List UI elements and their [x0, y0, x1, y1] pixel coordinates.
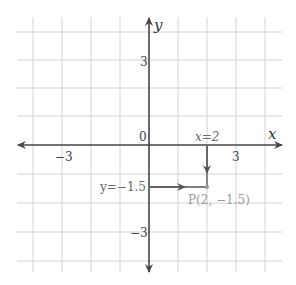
tick-y-neg3: −3: [130, 226, 148, 240]
coordinate-plane: x y 0 −3 3 3 −3 x=2 y=−1.5 P(2, −1.5): [0, 0, 296, 285]
point-label: P(2, −1.5): [188, 193, 250, 207]
point-p: [205, 185, 209, 189]
origin-label: 0: [139, 130, 147, 144]
tick-y-pos3: 3: [140, 55, 148, 69]
tick-x-pos3: 3: [232, 150, 240, 164]
horizontal-guide-label: y=−1.5: [99, 180, 146, 194]
y-axis-label: y: [153, 16, 163, 34]
tick-x-neg3: −3: [55, 150, 73, 164]
x-axis-label: x: [268, 125, 277, 143]
vertical-guide-label: x=2: [195, 130, 219, 144]
